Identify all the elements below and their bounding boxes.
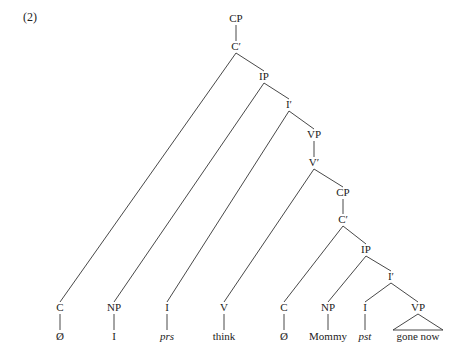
tree-edge-ibar1-i1 <box>167 111 289 302</box>
node-cbar2: C′ <box>338 213 348 225</box>
tree-edge-ip1-np1 <box>114 83 264 302</box>
node-ip2: IP <box>361 243 371 255</box>
leaf-word-0: Ø <box>56 330 64 342</box>
node-c1: C <box>56 301 63 313</box>
tree-edge-ip2-np2 <box>328 256 366 302</box>
node-ibar2: I′ <box>388 270 394 282</box>
node-ip1: IP <box>259 70 269 82</box>
node-cp1: CP <box>229 12 242 24</box>
leaf-word-3: think <box>213 330 236 342</box>
tree-edge-cbar1-ip1 <box>236 53 264 71</box>
node-vbar1: V′ <box>309 156 319 168</box>
node-vp1: VP <box>307 128 321 140</box>
node-np2: NP <box>321 301 335 313</box>
leaf-word-1: I <box>112 330 116 342</box>
node-vp2: VP <box>411 301 425 313</box>
triangle-vp2 <box>393 314 443 330</box>
tree-edge-cbar1-c1 <box>60 53 236 302</box>
leaf-word-7: gone now <box>396 330 439 342</box>
tree-edge-cbar2-c2 <box>284 226 343 302</box>
tree-edge-cbar2-ip2 <box>343 226 366 244</box>
leaf-word-6: pst <box>358 330 373 342</box>
leaf-word-4: Ø <box>280 330 288 342</box>
node-c2: C <box>280 301 287 313</box>
node-cbar1: C′ <box>231 40 241 52</box>
syntax-tree: CPC′IPI′VPV′CPC′IPI′CNPIVCNPIVPØIprsthin… <box>0 0 460 360</box>
tree-edge-vbar1-cp2 <box>314 169 343 187</box>
node-cp2: CP <box>336 186 349 198</box>
node-ibar1: I′ <box>286 98 292 110</box>
node-np1: NP <box>107 301 121 313</box>
node-v1: V <box>220 301 228 313</box>
tree-edge-ibar2-i2 <box>365 283 391 302</box>
tree-edge-ibar1-vp1 <box>289 111 314 129</box>
tree-edge-ip2-ibar2 <box>366 256 391 271</box>
leaf-word-2: prs <box>159 330 174 342</box>
leaf-word-5: Mommy <box>309 330 347 342</box>
tree-edge-ibar2-vp2 <box>391 283 418 302</box>
node-i1: I <box>165 301 169 313</box>
node-i2: I <box>363 301 367 313</box>
tree-edge-vbar1-v1 <box>224 169 314 302</box>
tree-edge-ip1-ibar1 <box>264 83 289 99</box>
